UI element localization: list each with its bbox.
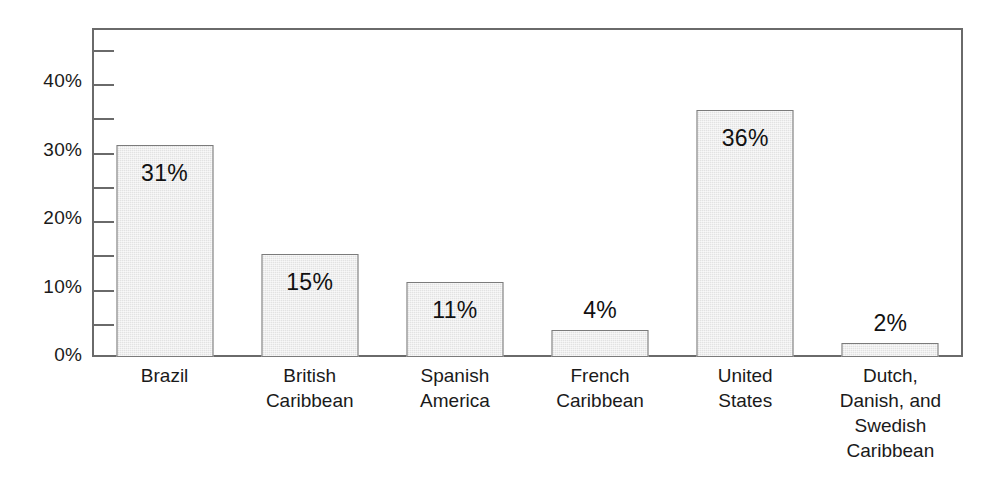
x-axis-category-line: States [673,388,818,413]
bar[interactable]: 2% [842,343,939,357]
x-axis-category-line: Danish, and [818,388,963,413]
bar-value-label: 11% [432,297,477,324]
x-axis-category-line: Spanish [382,363,527,388]
x-axis-category-line: Caribbean [528,388,673,413]
x-axis-category-line: Brazil [92,363,237,388]
bar[interactable]: 11% [406,282,503,357]
x-axis-category-line: Swedish [818,413,963,438]
x-axis-category-label: Dutch,Danish, andSwedishCaribbean [818,363,963,463]
y-axis-label-group: 0%10%20%30%40% [4,0,82,490]
x-axis-category-line: French [528,363,673,388]
bar[interactable]: 31% [116,145,213,357]
x-axis-category-label: Brazil [92,363,237,388]
y-axis-tick-label: 40% [12,70,82,92]
bar-group: 36% [673,28,818,357]
x-axis-category-line: America [382,388,527,413]
x-axis-category-line: Caribbean [237,388,382,413]
bar[interactable]: 15% [261,254,358,357]
x-axis-category-label: UnitedStates [673,363,818,413]
y-axis-tick-label: 30% [12,139,82,161]
x-axis-label-group: BrazilBritishCaribbeanSpanishAmericaFren… [92,363,963,490]
bar[interactable]: 4% [552,330,649,357]
bar-group: 31% [92,28,237,357]
x-axis-category-label: FrenchCaribbean [528,363,673,413]
x-axis-category-label: BritishCaribbean [237,363,382,413]
bars-layer: 31%15%11%4%36%2% [92,28,963,357]
bar-group: 2% [818,28,963,357]
bar-group: 11% [382,28,527,357]
bar[interactable]: 36% [697,110,794,357]
x-axis-category-line: United [673,363,818,388]
bar-value-label: 36% [722,125,769,152]
x-axis-category-line: Dutch, [818,363,963,388]
y-axis-tick-label: 10% [12,276,82,298]
x-axis-category-label: SpanishAmerica [382,363,527,413]
x-axis-category-line: British [237,363,382,388]
bar-chart: 0%10%20%30%40% 31%15%11%4%36%2% BrazilBr… [0,0,999,490]
bar-group: 4% [528,28,673,357]
y-axis-tick-label: 20% [12,207,82,229]
bar-value-label: 2% [873,310,907,337]
bar-value-label: 31% [141,160,188,187]
bar-value-label: 4% [583,297,617,324]
y-axis-tick-label: 0% [12,344,82,366]
bar-group: 15% [237,28,382,357]
x-axis-category-line: Caribbean [818,438,963,463]
bar-value-label: 15% [286,269,333,296]
